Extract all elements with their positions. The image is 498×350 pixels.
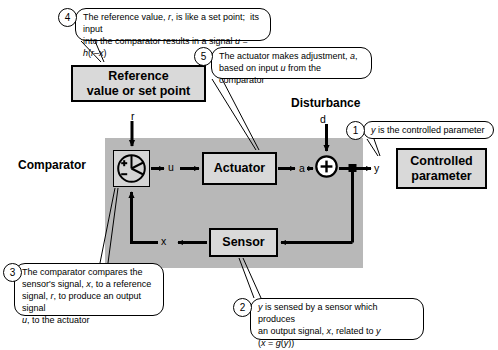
callout-2-number: 2: [233, 298, 252, 317]
callout-5-number: 5: [194, 47, 213, 66]
controlled-block-line1: Controlled: [410, 154, 473, 168]
summing-junction-symbol: [315, 155, 338, 178]
callout-1-number: 1: [346, 121, 365, 140]
callout-4-bubble: The reference value, r, is like a set po…: [75, 8, 271, 41]
callout-2-bubble: y is sensed by a sensor which producesan…: [250, 298, 424, 340]
reference-block-line1: Reference: [87, 69, 191, 83]
reference-value-block: Reference value or set point: [71, 65, 206, 102]
comparator-label: Comparator: [18, 158, 86, 172]
comparator-symbol: [117, 154, 146, 183]
leader-callout-1-a: [367, 139, 378, 156]
leader-callout-5-a: [212, 79, 256, 150]
callout-1-bubble: y is the controlled parameter: [363, 121, 494, 139]
signal-label-r: r: [131, 110, 135, 122]
signal-label-a: a: [299, 162, 305, 174]
leader-callout-5-b: [222, 79, 259, 150]
sensor-block: Sensor: [209, 228, 278, 257]
signal-label-d: d: [320, 113, 326, 125]
control-system-diagram: + − + Reference value or set point Actua…: [0, 0, 498, 350]
signal-label-x: x: [161, 235, 166, 247]
signal-label-u: u: [168, 161, 174, 173]
controlled-parameter-block: Controlled parameter: [396, 148, 487, 189]
feedback-tap-node: [349, 164, 357, 172]
actuator-block: Actuator: [202, 152, 277, 185]
reference-block-line2: value or set point: [87, 84, 191, 98]
callout-5-bubble: The actuator makes adjustment, a,based o…: [211, 47, 372, 79]
disturbance-label: Disturbance: [291, 96, 360, 110]
signal-label-y: y: [374, 162, 379, 174]
callout-3-number: 3: [3, 263, 22, 282]
controlled-block-line2: parameter: [410, 169, 473, 183]
leader-callout-1-b: [374, 139, 380, 156]
callout-4-number: 4: [58, 8, 77, 27]
callout-3-bubble: The comparator compares thesensor's sign…: [14, 263, 164, 316]
